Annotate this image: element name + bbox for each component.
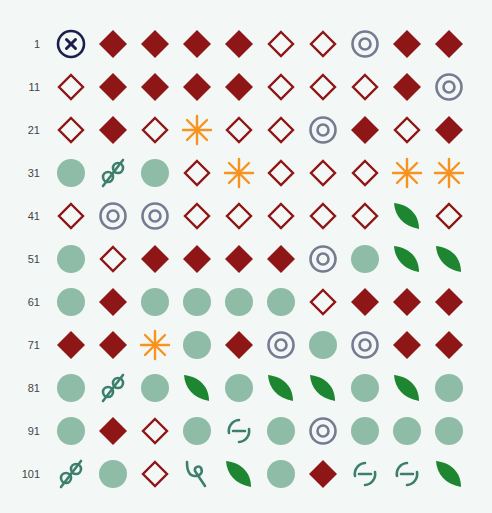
outline-diamond-icon	[307, 28, 339, 60]
target-rings-icon	[97, 200, 129, 232]
filled-diamond-icon	[97, 28, 129, 60]
leaf-icon	[223, 458, 255, 490]
row-label: 31	[0, 166, 40, 180]
filled-diamond-icon	[97, 114, 129, 146]
filled-diamond-icon	[349, 286, 381, 318]
sage-dot-icon	[349, 415, 381, 447]
sage-dot-icon	[391, 415, 423, 447]
outline-diamond-icon	[307, 157, 339, 189]
filled-diamond-icon	[223, 329, 255, 361]
outline-diamond-icon	[349, 200, 381, 232]
sage-dot-icon	[55, 372, 87, 404]
row-label: 91	[0, 424, 40, 438]
outline-diamond-icon	[223, 200, 255, 232]
filled-diamond-icon	[223, 28, 255, 60]
row-label: 71	[0, 338, 40, 352]
outline-diamond-icon	[265, 71, 297, 103]
target-rings-icon	[307, 114, 339, 146]
row-label: 11	[0, 80, 40, 94]
row-label: 41	[0, 209, 40, 223]
sage-dot-icon	[139, 372, 171, 404]
filled-diamond-icon	[433, 286, 465, 318]
sage-dot-icon	[265, 458, 297, 490]
filled-diamond-icon	[181, 71, 213, 103]
circle-x-icon	[55, 28, 87, 60]
target-rings-icon	[349, 28, 381, 60]
dashed-circle-icon	[223, 415, 255, 447]
filled-diamond-icon	[265, 243, 297, 275]
filled-diamond-icon	[391, 329, 423, 361]
filled-diamond-icon	[391, 71, 423, 103]
sage-dot-icon	[433, 415, 465, 447]
row-label: 101	[0, 467, 40, 481]
outline-diamond-icon	[181, 157, 213, 189]
sage-dot-icon	[307, 329, 339, 361]
filled-diamond-icon	[139, 243, 171, 275]
sage-dot-icon	[349, 243, 381, 275]
sage-dot-icon	[97, 458, 129, 490]
outline-diamond-icon	[139, 415, 171, 447]
filled-diamond-icon	[181, 243, 213, 275]
filled-diamond-icon	[433, 114, 465, 146]
outline-diamond-icon	[181, 200, 213, 232]
leaf-icon	[391, 372, 423, 404]
outline-diamond-icon	[349, 71, 381, 103]
outline-diamond-icon	[55, 71, 87, 103]
filled-diamond-icon	[97, 71, 129, 103]
filled-diamond-icon	[223, 71, 255, 103]
filled-diamond-icon	[433, 28, 465, 60]
outline-diamond-icon	[97, 243, 129, 275]
dashed-circle-icon	[391, 458, 423, 490]
sage-dot-icon	[139, 157, 171, 189]
outline-diamond-icon	[433, 200, 465, 232]
target-rings-icon	[307, 243, 339, 275]
outline-diamond-icon	[265, 157, 297, 189]
sage-dot-icon	[433, 372, 465, 404]
filled-diamond-icon	[181, 28, 213, 60]
sage-dot-icon	[265, 286, 297, 318]
asterisk-icon	[223, 157, 255, 189]
outline-diamond-icon	[265, 114, 297, 146]
outline-diamond-icon	[265, 28, 297, 60]
target-rings-icon	[307, 415, 339, 447]
outline-diamond-icon	[391, 114, 423, 146]
filled-diamond-icon	[139, 28, 171, 60]
loop-glyph-icon	[97, 157, 129, 189]
sage-dot-icon	[55, 286, 87, 318]
outline-diamond-icon	[307, 286, 339, 318]
leaf-icon	[433, 458, 465, 490]
outline-diamond-icon	[55, 200, 87, 232]
target-rings-icon	[265, 329, 297, 361]
sage-dot-icon	[181, 415, 213, 447]
row-label: 81	[0, 381, 40, 395]
sage-dot-icon	[55, 415, 87, 447]
asterisk-icon	[433, 157, 465, 189]
dashed-circle-icon	[349, 458, 381, 490]
row-label: 21	[0, 123, 40, 137]
sage-dot-icon	[349, 372, 381, 404]
sage-dot-icon	[181, 286, 213, 318]
leaf-icon	[307, 372, 339, 404]
outline-diamond-icon	[307, 200, 339, 232]
target-rings-icon	[139, 200, 171, 232]
filled-diamond-icon	[97, 415, 129, 447]
filled-diamond-icon	[97, 329, 129, 361]
outline-diamond-icon	[223, 114, 255, 146]
filled-diamond-icon	[97, 286, 129, 318]
loop-glyph-icon	[97, 372, 129, 404]
row-label: 1	[0, 37, 40, 51]
outline-diamond-icon	[55, 114, 87, 146]
sage-dot-icon	[265, 415, 297, 447]
target-rings-icon	[349, 329, 381, 361]
outline-diamond-icon	[349, 157, 381, 189]
leaf-icon	[265, 372, 297, 404]
filled-diamond-icon	[433, 329, 465, 361]
filled-diamond-icon	[391, 286, 423, 318]
filled-diamond-icon	[349, 114, 381, 146]
icon-grid: 1112131415161718191101	[0, 0, 492, 513]
outline-diamond-icon	[139, 458, 171, 490]
filled-diamond-icon	[223, 243, 255, 275]
row-label: 61	[0, 295, 40, 309]
filled-diamond-icon	[139, 71, 171, 103]
leaf-icon	[391, 243, 423, 275]
